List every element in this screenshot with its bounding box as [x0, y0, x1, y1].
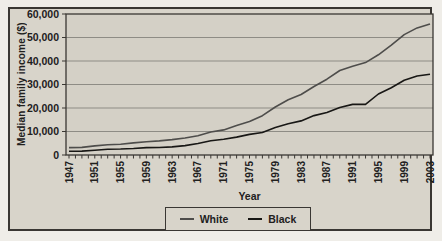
white-series-line-swatch — [180, 218, 194, 220]
y-tick-label: 30,000 — [27, 78, 59, 90]
x-tick-label: 1971 — [218, 161, 229, 184]
y-axis-title: Median family income ($) — [13, 14, 30, 155]
x-axis-title: Year — [66, 190, 433, 202]
legend-item-white: White — [180, 213, 229, 225]
x-tick-label: 1959 — [141, 161, 152, 184]
x-tick-label: 1963 — [167, 161, 178, 184]
x-tick-label: 1967 — [192, 161, 203, 184]
x-tick-label: 1979 — [270, 161, 281, 184]
legend-label-white: White — [200, 213, 229, 225]
y-tick-label: 0 — [53, 149, 59, 161]
x-tick-label: 1995 — [373, 161, 384, 184]
x-tick-label: 1955 — [115, 161, 126, 184]
legend: White Black — [165, 207, 311, 231]
x-tick-label: 1987 — [321, 161, 332, 184]
y-tick-label: 10,000 — [27, 125, 59, 137]
x-tick-label: 1947 — [64, 161, 75, 184]
y-tick-label: 50,000 — [27, 31, 59, 43]
legend-item-black: Black — [248, 213, 296, 225]
black-series-line-swatch — [248, 218, 262, 220]
y-tick-label: 20,000 — [27, 102, 59, 114]
y-tick-label: 60,000 — [27, 8, 59, 20]
y-tick-label: 40,000 — [27, 55, 59, 67]
chart-plot-area: 010,00020,00030,00040,00050,00060,000194… — [0, 0, 442, 241]
x-tick-label: 1999 — [399, 161, 410, 184]
legend-label-black: Black — [268, 213, 296, 225]
x-tick-label: 1983 — [296, 161, 307, 184]
x-tick-label: 1991 — [347, 161, 358, 184]
x-tick-label: 1951 — [89, 161, 100, 184]
x-tick-label: 2003 — [425, 161, 436, 184]
x-tick-label: 1975 — [244, 161, 255, 184]
